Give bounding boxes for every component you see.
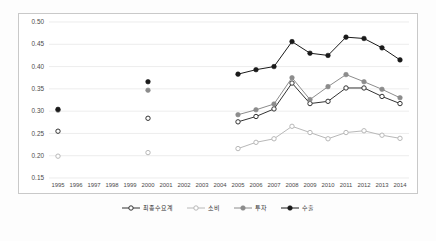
x-tick-label: 1999 [123,182,136,188]
x-tick-label: 2000 [141,182,155,188]
data-point [398,58,403,63]
legend-marker-icon [187,204,205,212]
x-tick-label: 2005 [231,182,245,188]
x-tick-label: 2014 [393,182,407,188]
gridlines-group [49,22,409,178]
x-tick-label: 2003 [195,182,209,188]
plot-area: 0.150.200.250.300.350.400.450.50 1995199… [18,13,418,194]
data-point [146,88,151,93]
legend-item[interactable]: 최종수요계 [122,203,173,212]
legend-item-label: 투자 [255,203,267,212]
series-filled-circle [56,72,403,117]
data-point [254,140,258,144]
data-point [398,101,402,105]
data-point [290,81,294,85]
x-tick-label: 2013 [375,182,389,188]
chart-figure: 0.150.200.250.300.350.400.450.50 1995199… [0,0,436,241]
legend-item[interactable]: 소비 [187,203,220,212]
data-point [272,102,277,107]
data-point [380,87,385,92]
data-point [362,79,367,84]
data-point [344,72,349,77]
data-point [146,150,150,154]
y-tick-label: 0.25 [32,130,45,137]
data-point [254,108,259,113]
data-point [398,95,403,100]
data-point [272,137,276,141]
x-axis-tick-labels: 1995199619971998199920002001200220032004… [51,182,407,188]
line-chart-svg: 0.150.200.250.300.350.400.450.50 1995199… [19,14,417,193]
x-tick-label: 2001 [159,182,172,188]
x-tick-label: 1995 [51,182,65,188]
data-point [290,75,295,80]
data-point [326,137,330,141]
data-point [56,107,61,112]
series-line [238,75,400,115]
data-point [146,79,151,84]
data-point [236,72,241,77]
data-point [380,133,384,137]
x-tick-label: 2006 [249,182,263,188]
data-point [236,120,240,124]
x-tick-label: 2007 [267,182,280,188]
data-point [236,146,240,150]
data-point [308,51,313,56]
legend-item[interactable]: 투자 [234,203,267,212]
data-point [344,86,348,90]
data-point [254,114,258,118]
y-tick-label: 0.30 [32,107,45,114]
y-tick-label: 0.50 [32,18,45,25]
legend-marker-icon [122,204,140,212]
legend-item-label: 소비 [208,203,220,212]
y-axis-tick-labels: 0.150.200.250.300.350.400.450.50 [32,18,45,181]
data-point [380,94,384,98]
data-point [56,154,60,158]
data-point [380,46,385,51]
data-point [362,129,366,133]
x-tick-label: 2004 [213,182,227,188]
y-tick-label: 0.45 [32,40,45,47]
data-point [272,64,277,69]
x-tick-label: 2011 [340,182,353,188]
x-tick-label: 1998 [105,182,119,188]
y-tick-label: 0.40 [32,63,45,70]
x-tick-label: 2010 [321,182,335,188]
series-line [238,37,400,74]
data-point [146,116,150,120]
series-filled-circle [56,35,403,112]
y-tick-label: 0.20 [32,152,45,159]
legend-item-label: 최종수요계 [143,203,173,212]
legend-item-label: 수출 [302,203,314,212]
y-tick-label: 0.15 [32,174,45,181]
data-point [344,35,349,40]
data-point [56,129,60,133]
legend-item[interactable]: 수출 [281,203,314,212]
data-point [272,107,276,111]
series-open-circle [56,124,402,158]
x-tick-label: 1997 [87,182,100,188]
data-point [398,136,402,140]
legend-marker-icon [281,204,299,212]
x-tick-label: 1996 [69,182,83,188]
data-point [290,39,295,44]
data-point [326,84,331,89]
y-tick-label: 0.35 [32,85,45,92]
x-tick-label: 2002 [177,182,190,188]
legend-marker-icon [234,204,252,212]
data-point [326,53,331,58]
data-point [344,130,348,134]
data-point [362,86,366,90]
chart-legend: 최종수요계소비투자수출 [0,203,436,212]
x-tick-label: 2008 [285,182,299,188]
data-point [308,97,313,102]
data-point [236,112,241,117]
data-point [362,36,367,41]
data-point [308,130,312,134]
x-tick-label: 2012 [357,182,370,188]
data-point [254,67,259,72]
data-series-group [56,35,403,159]
data-point [326,99,330,103]
series-line [238,126,400,148]
data-point [290,124,294,128]
x-tick-label: 2009 [303,182,316,188]
